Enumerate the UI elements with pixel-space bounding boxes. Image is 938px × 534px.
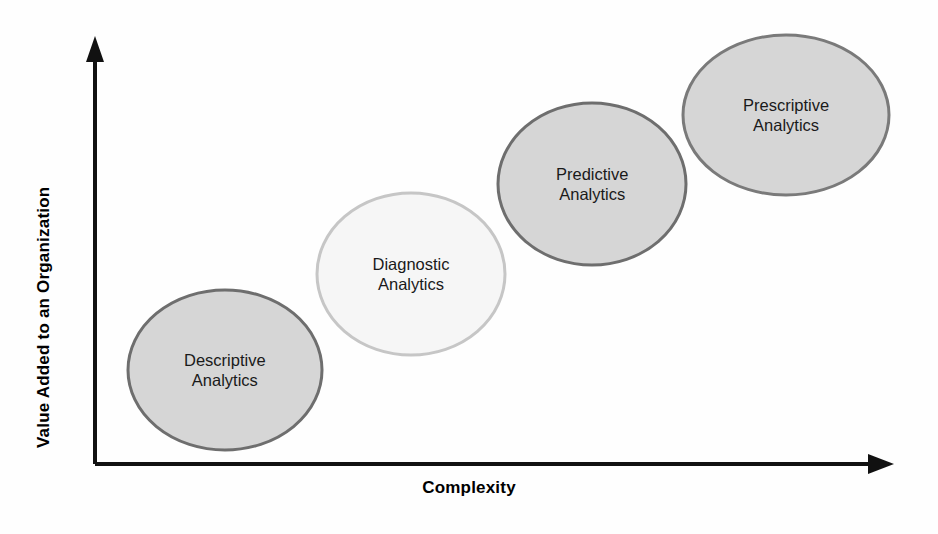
y-axis-label: Value Added to an Organization [34, 187, 54, 448]
y-axis-arrowhead-icon [86, 36, 104, 62]
x-axis-arrowhead-icon [868, 454, 894, 474]
x-axis-label: Complexity [0, 478, 938, 498]
bubble-diagnostic[interactable] [317, 193, 505, 355]
bubble-descriptive[interactable] [128, 290, 322, 450]
bubble-layer [128, 35, 889, 450]
bubble-prescriptive[interactable] [683, 35, 889, 195]
diagram-canvas [0, 0, 938, 534]
bubble-predictive[interactable] [498, 103, 686, 265]
analytics-maturity-diagram: DescriptiveAnalyticsDiagnosticAnalyticsP… [0, 0, 938, 534]
y-axis [86, 36, 104, 464]
x-axis [95, 454, 894, 474]
